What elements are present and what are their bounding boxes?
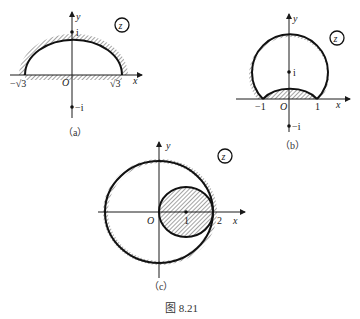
tick-2-c: 2 [217, 215, 222, 226]
origin-label-a: O [62, 77, 69, 88]
point-1-c [184, 210, 188, 214]
figure-canvas: y i −i x O −√3 √3 z （a） y i −i x O −1 1 … [0, 0, 360, 319]
neg-i-label-b: −i [292, 121, 301, 132]
panel-b: y i −i x O −1 1 z （b） [236, 13, 350, 151]
y-label-c: y [165, 140, 171, 151]
i-label-a: i [76, 27, 79, 38]
tick-sqrt3: √3 [110, 78, 121, 89]
tick-1-c: 1 [184, 215, 189, 226]
plane-label-a: z [118, 20, 123, 31]
tick-neg-1: −1 [255, 101, 266, 112]
point-i-a [70, 30, 74, 34]
hatch-axis-a [25, 75, 122, 80]
panel-c: y x O 1 2 z （c） [98, 140, 245, 292]
panel-a: y i −i x O −√3 √3 z （a） [10, 11, 142, 138]
panel-label-a: （a） [63, 127, 87, 138]
point-i-b [287, 70, 291, 74]
i-label-b: i [293, 67, 296, 78]
neg-i-label-a: −i [75, 102, 84, 113]
tick-neg-sqrt3: −√3 [10, 78, 26, 89]
x-label-b: x [335, 99, 341, 110]
plane-label-b: z [333, 33, 338, 44]
x-label-a: x [132, 75, 138, 86]
origin-label-b: O [280, 101, 287, 112]
panel-label-b: （b） [280, 140, 305, 151]
plane-label-c: z [221, 151, 226, 162]
point-neg-i-a [70, 105, 74, 109]
panel-label-c: （c） [149, 281, 173, 292]
x-label-c: x [232, 215, 238, 226]
tick-1: 1 [315, 101, 320, 112]
y-label-b: y [292, 13, 298, 24]
origin-label-c: O [147, 215, 154, 226]
y-label-a: y [75, 11, 81, 22]
figure-caption: 图 8.21 [165, 302, 198, 314]
point-neg-i-b [287, 124, 291, 128]
